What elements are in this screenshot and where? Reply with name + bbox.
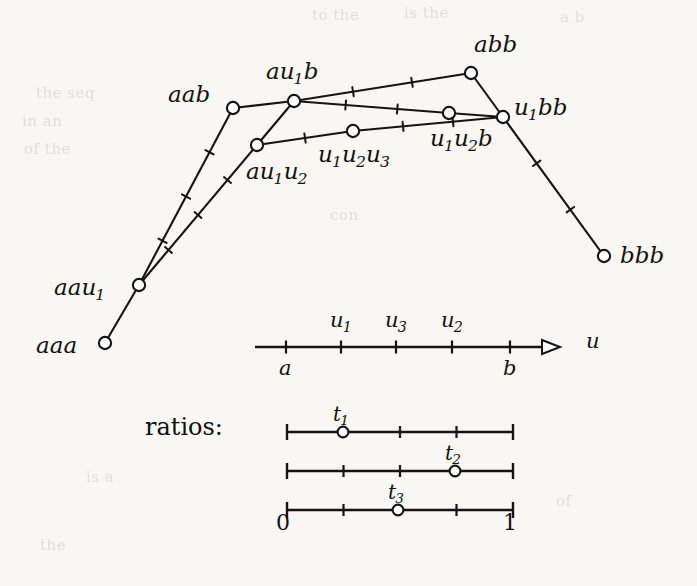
- node-label: u1u2b: [430, 127, 493, 154]
- polygon-node: [347, 125, 359, 137]
- ratio-scale-max-label: 1: [503, 512, 517, 534]
- polygon-edge: [471, 73, 503, 117]
- polygon-node: [227, 102, 239, 114]
- node-label: u1u2u3: [318, 143, 390, 170]
- edge-tick: [352, 87, 353, 96]
- node-label: bbb: [620, 244, 664, 267]
- polygon-edge: [449, 113, 503, 117]
- polygon-edge: [503, 117, 604, 256]
- node-label: aab: [168, 83, 210, 106]
- u-axis-tick-label: u2: [441, 310, 463, 334]
- node-label: au1b: [266, 60, 318, 87]
- u-axis-label: u: [586, 331, 600, 352]
- ratios-caption: ratios:: [145, 413, 223, 441]
- polygon-node: [598, 250, 610, 262]
- ratio-marker-label: t2: [445, 443, 461, 467]
- u-axis-arrowhead: [542, 340, 560, 354]
- polygon-node: [99, 337, 111, 349]
- node-label: aau1: [54, 276, 105, 303]
- u-axis-tick-label: a: [279, 358, 292, 379]
- polygon-node: [497, 111, 509, 123]
- node-label: au1u2: [246, 160, 308, 187]
- ratio-marker: [393, 505, 404, 516]
- polygon-edge: [257, 101, 294, 145]
- polygon-edge: [294, 73, 471, 101]
- polygon-node: [443, 107, 455, 119]
- edge-tick: [304, 133, 305, 142]
- u-axis-tick-label: u1: [330, 310, 352, 334]
- polygon-node: [465, 67, 477, 79]
- edge-tick: [397, 104, 398, 113]
- edge-tick: [411, 78, 412, 87]
- polygon-edge: [294, 101, 449, 113]
- u-axis-tick-label: b: [503, 358, 516, 379]
- node-label: u1bb: [514, 96, 567, 123]
- polygon-node: [288, 95, 300, 107]
- node-label: abb: [474, 33, 517, 56]
- node-label: aaa: [36, 334, 77, 357]
- polygon-edge: [233, 101, 294, 108]
- ratio-scale-min-label: 0: [276, 512, 290, 534]
- polygon-node: [251, 139, 263, 151]
- ratio-marker: [450, 466, 461, 477]
- u-axis-tick-label: u3: [385, 310, 407, 334]
- ratio-marker-label: t1: [333, 404, 349, 428]
- edge-tick: [403, 122, 404, 131]
- figure-canvas: to theis thea bthe seqin anof theconis a…: [0, 0, 697, 586]
- u-parameter-axis: [255, 340, 560, 354]
- ratio-marker-label: t3: [388, 482, 404, 506]
- polygon-edge: [105, 285, 139, 343]
- polygon-node: [133, 279, 145, 291]
- edge-tick: [345, 100, 346, 109]
- ratio-marker: [338, 427, 349, 438]
